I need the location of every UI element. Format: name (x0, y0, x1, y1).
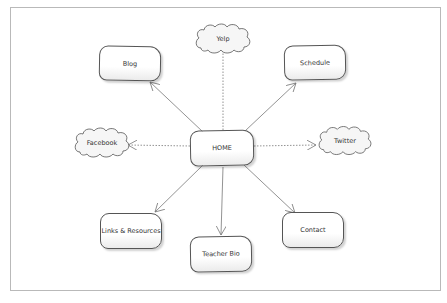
node-label: HOME (212, 144, 232, 152)
node-contact[interactable]: Contact (282, 212, 344, 248)
node-label: Facebook (87, 139, 118, 147)
node-label: Schedule (300, 58, 330, 67)
edge-home-schedule (245, 83, 296, 131)
edge-home-teacher-bio (221, 167, 223, 235)
node-label: Twitter (334, 137, 356, 145)
node-schedule[interactable]: Schedule (284, 44, 347, 80)
node-facebook[interactable]: Facebook (72, 125, 132, 161)
node-home[interactable]: HOME (190, 129, 255, 166)
node-blog[interactable]: Blog (99, 45, 162, 81)
edge-home-blog (150, 82, 203, 132)
node-label: Blog (123, 59, 138, 67)
node-twitter[interactable]: Twitter (316, 123, 374, 159)
edge-home-facebook (128, 145, 190, 146)
node-teacher-bio[interactable]: Teacher Bio (190, 235, 253, 272)
node-label: Contact (300, 226, 325, 234)
edge-home-contact (244, 165, 295, 213)
edge-home-links (155, 165, 203, 212)
node-links-resources[interactable]: Links & Resources (100, 213, 162, 249)
node-label: Teacher Bio (202, 250, 240, 259)
node-yelp[interactable]: Yelp (193, 22, 253, 56)
node-label: Links & Resources (101, 227, 160, 235)
edge-home-twitter (254, 145, 316, 146)
node-label: Yelp (216, 35, 229, 43)
